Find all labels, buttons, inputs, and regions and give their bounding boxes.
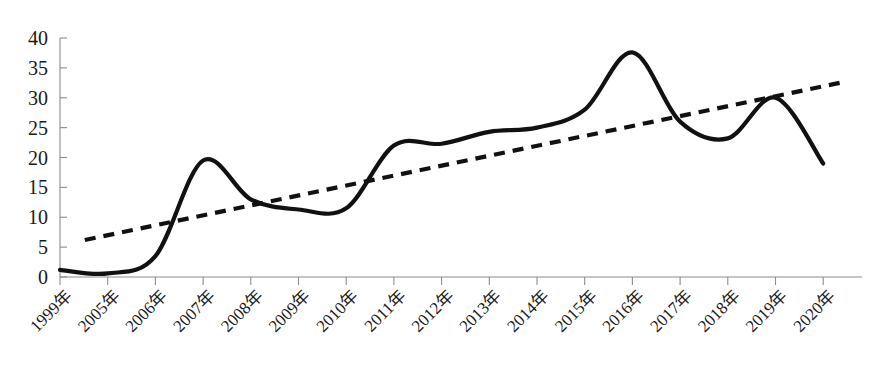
x-axis-tick-label: 2006年 [122,286,171,335]
trendline-dashed [85,83,840,240]
x-axis-tick-marks [60,277,823,285]
y-axis-tick-label: 35 [28,57,48,79]
x-axis-tick-label: 2010年 [313,286,362,335]
x-axis-tick-label: 2014年 [503,286,552,335]
y-axis-tick-label: 40 [28,27,48,49]
x-axis-tick-label: 2020年 [790,286,839,335]
x-axis-tick-label: 2018年 [694,286,743,335]
y-axis-tick-label: 30 [28,87,48,109]
y-axis-tick-label: 15 [28,176,48,198]
y-axis-tick-label: 5 [38,236,48,258]
x-axis-tick-label: 2009年 [265,286,314,335]
x-axis-tick-label: 2016年 [599,286,648,335]
x-axis-tick-label: 2015年 [551,286,600,335]
y-axis-tick-label: 25 [28,117,48,139]
x-axis-tick-label: 2011年 [361,286,410,335]
x-axis-tick-label: 2005年 [74,286,123,335]
data-series-line [60,52,823,274]
line-chart: 0510152025303540 1999年2005年2006年2007年200… [0,0,895,375]
y-axis-tick-label: 10 [28,206,48,228]
x-axis-tick-label: 2007年 [169,286,218,335]
x-axis-tick-label: 2008年 [217,286,266,335]
y-axis-tick-label: 20 [28,147,48,169]
y-axis-tick-label: 0 [38,266,48,288]
y-axis-tick-labels: 0510152025303540 [28,27,48,288]
x-axis-tick-label: 1999年 [26,286,75,335]
chart-canvas: 0510152025303540 1999年2005年2006年2007年200… [0,0,895,375]
x-axis-tick-label: 2012年 [408,286,457,335]
x-axis-tick-label: 2017年 [646,286,695,335]
x-axis-tick-label: 2013年 [456,286,505,335]
x-axis-tick-label: 2019年 [742,286,791,335]
y-axis-tick-marks [60,38,67,277]
x-axis-tick-labels: 1999年2005年2006年2007年2008年2009年2010年2011年… [26,286,839,335]
